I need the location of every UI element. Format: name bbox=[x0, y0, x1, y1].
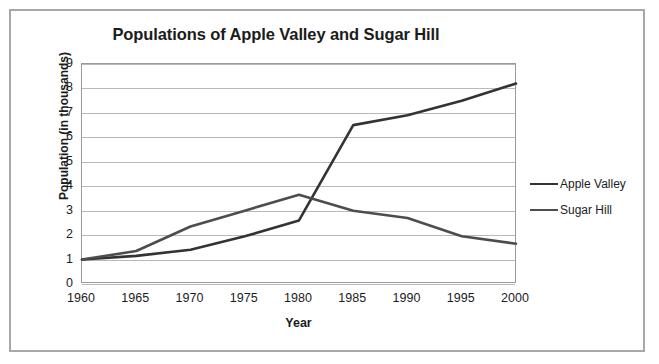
chart-figure-frame: Populations of Apple Valley and Sugar Hi… bbox=[9, 9, 645, 352]
x-axis-tick-label: 1975 bbox=[217, 292, 271, 305]
gridline bbox=[82, 284, 515, 285]
y-axis-tick-label: 7 bbox=[45, 106, 73, 119]
y-axis-tick-label: 2 bbox=[45, 228, 73, 241]
y-axis-tick-label: 0 bbox=[45, 277, 73, 290]
series-line bbox=[82, 195, 516, 260]
y-axis-tick-label: 8 bbox=[45, 81, 73, 94]
y-axis-tick-label: 1 bbox=[45, 253, 73, 266]
x-axis-title: Year bbox=[81, 316, 516, 330]
series-lines bbox=[82, 64, 517, 284]
chart-title: Populations of Apple Valley and Sugar Hi… bbox=[51, 25, 501, 44]
x-axis-tick-label: 2000 bbox=[488, 292, 542, 305]
legend-item-label: Sugar Hill bbox=[560, 203, 612, 217]
x-axis-tick-label: 1980 bbox=[271, 292, 325, 305]
y-axis-tick-label: 6 bbox=[45, 130, 73, 143]
y-axis-tick-label: 5 bbox=[45, 155, 73, 168]
x-axis-tick-label: 1995 bbox=[434, 292, 488, 305]
legend-item[interactable]: Sugar Hill bbox=[530, 197, 645, 223]
legend-line-swatch bbox=[530, 209, 558, 211]
x-axis-tick-label: 1960 bbox=[54, 292, 108, 305]
x-axis-tick-label: 1970 bbox=[163, 292, 217, 305]
x-axis-tick-label: 1990 bbox=[380, 292, 434, 305]
plot-area bbox=[81, 63, 516, 283]
x-axis-tick-label: 1985 bbox=[325, 292, 379, 305]
y-axis-tick-label: 4 bbox=[45, 179, 73, 192]
legend-item-label: Apple Valley bbox=[560, 177, 626, 191]
chart-legend: Apple ValleySugar Hill bbox=[530, 171, 645, 223]
y-axis-tick-label: 3 bbox=[45, 204, 73, 217]
x-axis-tick-label: 1965 bbox=[108, 292, 162, 305]
legend-item[interactable]: Apple Valley bbox=[530, 171, 645, 197]
legend-line-swatch bbox=[530, 183, 558, 185]
y-axis-tick-label: 9 bbox=[45, 57, 73, 70]
